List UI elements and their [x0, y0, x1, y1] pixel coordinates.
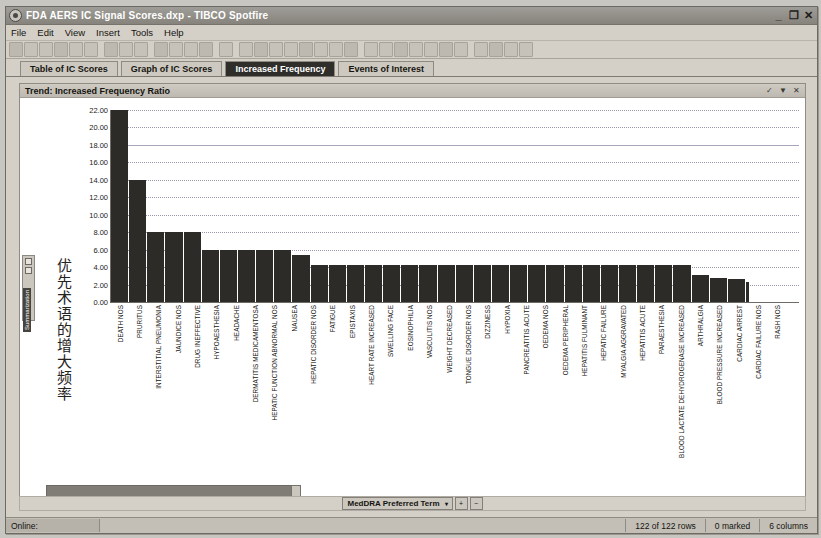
copy-icon[interactable]	[104, 42, 118, 57]
bar-chart-icon[interactable]	[269, 42, 283, 57]
close-panel-icon[interactable]: ✕	[793, 87, 800, 95]
zoom-out-button[interactable]: −	[470, 497, 483, 510]
tab-graph-of-ic-scores[interactable]: Graph of IC Scores	[121, 61, 223, 76]
refresh-icon[interactable]	[184, 42, 198, 57]
x-axis-label[interactable]: CARDIAC ARREST	[736, 305, 743, 362]
window-controls[interactable]: _ ❐ ✕	[772, 7, 815, 24]
close-button[interactable]: ✕	[802, 10, 815, 22]
x-axis-label[interactable]: BLOOD PRESSURE INCREASED	[716, 305, 723, 404]
bar[interactable]	[528, 265, 545, 302]
find-icon[interactable]	[134, 42, 148, 57]
details-icon[interactable]	[454, 42, 468, 57]
x-axis-label[interactable]: PARAESTHESIA	[658, 305, 665, 354]
tab-table-of-ic-scores[interactable]: Table of IC Scores	[20, 61, 118, 76]
parallel-coord-icon[interactable]	[394, 42, 408, 57]
x-axis-label[interactable]: HEPATITIS ACUTE	[639, 305, 646, 361]
bar[interactable]	[728, 279, 745, 302]
bar[interactable]	[601, 265, 618, 302]
minimize-button[interactable]: _	[772, 10, 785, 22]
bar-partial[interactable]	[746, 282, 749, 302]
x-axis-label[interactable]: HEADACHE	[233, 305, 240, 341]
menu-item-tools[interactable]: Tools	[131, 27, 153, 38]
bar[interactable]	[147, 232, 164, 302]
bar[interactable]	[274, 250, 291, 302]
x-axis-label[interactable]: JAUNDICE NOS	[175, 305, 182, 353]
menu-item-edit[interactable]: Edit	[37, 27, 53, 38]
x-axis-label[interactable]: NAUSEA	[291, 305, 298, 332]
bar[interactable]	[165, 232, 182, 302]
print-icon[interactable]	[54, 42, 68, 57]
marking-icon[interactable]	[489, 42, 503, 57]
filter-icon[interactable]	[474, 42, 488, 57]
bar[interactable]	[220, 250, 237, 302]
x-axis-label[interactable]: OEDEMA NOS	[542, 305, 549, 348]
bar[interactable]	[492, 265, 509, 302]
x-axis-label[interactable]: HEPATIC FAILURE	[600, 305, 607, 361]
cross-table-icon[interactable]	[254, 42, 268, 57]
menu-item-file[interactable]: File	[11, 27, 26, 38]
bar-series[interactable]	[111, 110, 798, 302]
undo-icon[interactable]	[154, 42, 168, 57]
x-axis-label[interactable]: VASCULITIS NOS	[426, 305, 433, 358]
add-page-icon[interactable]	[84, 42, 98, 57]
bar[interactable]	[438, 265, 455, 302]
bar[interactable]	[311, 265, 328, 302]
bar[interactable]	[673, 265, 690, 302]
table-icon[interactable]	[239, 42, 253, 57]
x-axis-label[interactable]: HEPATITIS FULMINANT	[581, 305, 588, 376]
bar[interactable]	[184, 232, 201, 302]
panel-menu-icon[interactable]: ▼	[779, 87, 787, 95]
bar[interactable]	[456, 265, 473, 302]
x-axis-label[interactable]: DERMATITIS MEDICAMENTOSA	[252, 305, 259, 402]
print-preview-icon[interactable]	[69, 42, 83, 57]
x-axis-label[interactable]: CARDIAC FAILURE NOS	[755, 305, 762, 379]
x-axis-label[interactable]: INTERSTITIAL PNEUMONIA	[155, 305, 162, 389]
bar[interactable]	[583, 265, 600, 302]
bar[interactable]	[238, 250, 255, 302]
summarization-panel-tab[interactable]: Summarization	[22, 255, 35, 321]
x-axis-label[interactable]: DRUG INEFFECTIVE	[194, 305, 201, 368]
line-chart-icon[interactable]	[284, 42, 298, 57]
bar[interactable]	[111, 110, 128, 302]
bar[interactable]	[419, 265, 436, 302]
panel-header-buttons[interactable]: ✓ ▼ ✕	[766, 87, 805, 95]
x-axis-label[interactable]: SWELLING FACE	[387, 305, 394, 357]
maximize-button[interactable]: ❐	[787, 10, 800, 22]
x-axis-label[interactable]: PRURITUS	[136, 305, 143, 338]
menu-item-view[interactable]: View	[65, 27, 85, 38]
bar[interactable]	[546, 265, 563, 302]
x-axis-label[interactable]: DEATH NOS	[117, 305, 124, 342]
map-chart-icon[interactable]	[329, 42, 343, 57]
redo-icon[interactable]	[169, 42, 183, 57]
x-axis-label[interactable]: HYPOAESTHESIA	[213, 305, 220, 360]
x-axis-label[interactable]: EPISTAXIS	[349, 305, 356, 338]
save-icon[interactable]	[24, 42, 38, 57]
kpi-icon[interactable]	[439, 42, 453, 57]
zoom-in-button[interactable]: +	[455, 497, 468, 510]
text-area-icon[interactable]	[409, 42, 423, 57]
scatter-icon[interactable]	[314, 42, 328, 57]
bar[interactable]	[202, 250, 219, 302]
open-icon[interactable]	[9, 42, 23, 57]
x-axis-label[interactable]: EOSINOPHILIA	[407, 305, 414, 351]
x-axis-label[interactable]: BLOOD LACTATE DEHYDROGENASE INCREASED	[678, 305, 685, 458]
star-icon[interactable]	[199, 42, 213, 57]
panel-close-icon[interactable]	[25, 267, 32, 274]
x-axis-label[interactable]: OEDEMA PERIPHERAL	[562, 305, 569, 375]
export-icon[interactable]	[39, 42, 53, 57]
home-icon[interactable]	[219, 42, 233, 57]
treemap-icon[interactable]	[364, 42, 378, 57]
x-axis-label[interactable]: ARTHRALGIA	[697, 305, 704, 346]
bar[interactable]	[329, 265, 346, 302]
bar[interactable]	[365, 265, 382, 302]
details-on-demand-icon[interactable]	[519, 42, 533, 57]
maximize-panel-icon[interactable]: ✓	[766, 87, 773, 95]
paste-icon[interactable]	[119, 42, 133, 57]
graphical-table-icon[interactable]	[424, 42, 438, 57]
menu-bar[interactable]: File Edit View Insert Tools Help	[6, 25, 817, 41]
x-axis-selector[interactable]: MedDRA Preferred Term ▾	[342, 497, 452, 510]
bar[interactable]	[347, 265, 364, 302]
x-axis-label[interactable]: FATIGUE	[329, 305, 336, 332]
tab-strip[interactable]: Table of IC ScoresGraph of IC ScoresIncr…	[6, 59, 817, 77]
bar[interactable]	[129, 180, 146, 302]
